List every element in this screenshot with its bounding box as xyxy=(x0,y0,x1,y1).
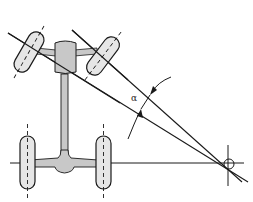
turning-center-icon xyxy=(224,159,234,169)
angle-alpha-label: α xyxy=(131,93,137,103)
front-right-wheel xyxy=(79,27,128,85)
rear-right-wheel xyxy=(96,124,111,198)
steering-geometry-diagram: α xyxy=(0,0,253,202)
vehicle-chassis xyxy=(30,41,98,173)
rear-left-wheel xyxy=(20,124,35,198)
